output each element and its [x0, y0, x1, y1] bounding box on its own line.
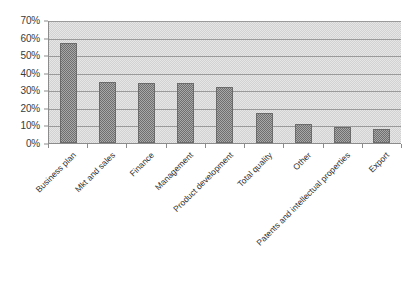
- x-axis-tick-mark: [323, 144, 324, 148]
- plot-area: [48, 21, 401, 144]
- y-axis-tick-label: 70%: [21, 16, 40, 26]
- bar[interactable]: [373, 129, 390, 143]
- x-axis-tick-mark: [87, 144, 88, 148]
- bar[interactable]: [256, 113, 273, 143]
- x-axis-labels: Business planMkt and salesFinanceManagem…: [0, 148, 409, 287]
- bar-slot: [362, 21, 401, 143]
- y-axis: 70%60%50%40%30%20%10%0%: [0, 21, 44, 144]
- y-axis-tick-label: 40%: [21, 69, 40, 79]
- x-axis-category-label: Finance: [128, 150, 156, 178]
- bar[interactable]: [295, 124, 312, 143]
- bar-slot: [205, 21, 244, 143]
- x-axis-category-label: Total quality: [235, 150, 274, 189]
- bar-slot: [245, 21, 284, 143]
- bar-slot: [49, 21, 88, 143]
- bar-slot: [166, 21, 205, 143]
- bar[interactable]: [138, 83, 155, 143]
- x-axis-category-label: Management: [153, 150, 195, 192]
- y-axis-tick-label: 10%: [21, 121, 40, 131]
- bar-slot: [88, 21, 127, 143]
- bar-slot: [323, 21, 362, 143]
- bar-slot: [284, 21, 323, 143]
- x-axis-tick-mark: [244, 144, 245, 148]
- x-axis-tick-mark: [166, 144, 167, 148]
- y-axis-tick-label: 60%: [21, 34, 40, 44]
- x-axis-category-label: Other: [291, 150, 313, 172]
- x-axis-category-label: Export: [367, 150, 391, 174]
- x-axis-category-label: Mkt and sales: [73, 150, 117, 194]
- y-axis-tick-label: 30%: [21, 86, 40, 96]
- bar-series: [49, 21, 401, 143]
- bar[interactable]: [334, 127, 351, 143]
- x-axis-tick-mark: [48, 144, 49, 148]
- x-axis-tick-mark: [401, 144, 402, 148]
- bar-slot: [127, 21, 166, 143]
- x-axis-tick-mark: [205, 144, 206, 148]
- y-axis-tick-label: 20%: [21, 104, 40, 114]
- y-axis-tick-label: 0%: [26, 139, 40, 149]
- x-axis-tick-mark: [283, 144, 284, 148]
- bar[interactable]: [60, 43, 77, 143]
- bar[interactable]: [99, 82, 116, 144]
- x-axis-tick-mark: [126, 144, 127, 148]
- bar-chart: 70%60%50%40%30%20%10%0% Business planMkt…: [0, 0, 409, 287]
- y-axis-tick-label: 50%: [21, 51, 40, 61]
- bar[interactable]: [216, 87, 233, 143]
- bar[interactable]: [177, 83, 194, 143]
- x-axis-tick-mark: [362, 144, 363, 148]
- x-axis-ticks: [48, 144, 401, 149]
- x-axis-category-label: Business plan: [33, 150, 77, 194]
